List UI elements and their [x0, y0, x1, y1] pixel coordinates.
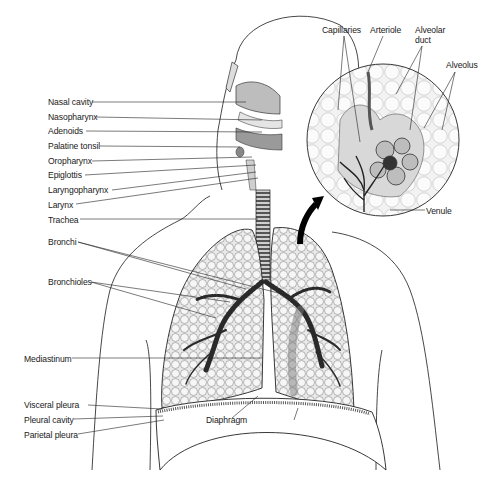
label-alveolus: Alveolus [446, 60, 478, 70]
right-lung [271, 228, 354, 410]
label-trachea: Trachea [48, 215, 79, 225]
label-alveolar-duct: Alveolar duct [415, 25, 445, 45]
respiratory-diagram [0, 0, 501, 499]
diaphragm [156, 398, 386, 470]
alveoli-inset [307, 64, 459, 216]
label-larynx: Larynx [48, 200, 73, 210]
head-structures [226, 62, 282, 190]
label-pleural-cavity: Pleural cavity [24, 415, 74, 425]
label-laryngopharynx: Laryngopharynx [48, 185, 108, 195]
label-palatine-tonsil: Palatine tonsil [48, 141, 100, 151]
label-adenoids: Adenoids [48, 126, 83, 136]
label-epiglottis: Epiglottis [48, 170, 82, 180]
label-bronchioles: Bronchioles [48, 277, 92, 287]
left-lung [162, 229, 264, 408]
label-nasal-cavity: Nasal cavity [48, 97, 93, 107]
label-nasopharynx: Nasopharynx [48, 112, 98, 122]
label-capillaries: Capillaries [322, 25, 361, 35]
label-venule: Venule [426, 206, 452, 216]
label-bronchi: Bronchi [48, 237, 76, 247]
label-visceral-pleura: Visceral pleura [24, 400, 79, 410]
label-parietal-pleura: Parietal pleura [24, 430, 78, 440]
label-oropharynx: Oropharynx [48, 156, 92, 166]
label-diaphragm: Diaphragm [206, 415, 247, 425]
label-arteriole: Arteriole [370, 25, 401, 35]
label-mediastinum: Mediastinum [24, 354, 72, 364]
